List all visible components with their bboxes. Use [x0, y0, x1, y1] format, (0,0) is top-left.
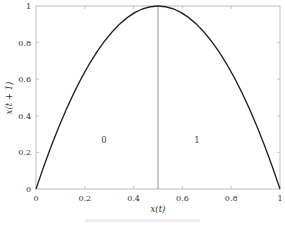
y-tick-label: 0.4 — [18, 112, 31, 121]
region-label-0: 0 — [101, 135, 106, 145]
y-axis-label: x(t + 1) — [4, 82, 14, 115]
y-tick-label: 1 — [26, 2, 31, 11]
x-axis-label: x(t) — [151, 204, 166, 214]
x-tick-label: 0 — [33, 194, 38, 203]
x-tick-label: 0.8 — [225, 194, 238, 203]
y-tick-label: 0.8 — [18, 39, 31, 48]
y-tick-label: 0 — [26, 185, 31, 194]
x-tick-label: 1 — [277, 194, 282, 203]
region-label-1: 1 — [194, 135, 199, 145]
chart: 0 0.2 0.4 0.6 0.8 1 0 0.2 0.4 0.6 0.8 1 … — [0, 0, 285, 226]
y-tick-label: 0.2 — [18, 148, 31, 157]
y-tick-label: 0.6 — [18, 75, 31, 84]
x-tick-label: 0.6 — [176, 194, 189, 203]
x-tick-label: 0.4 — [127, 194, 140, 203]
x-tick-label: 0.2 — [78, 194, 91, 203]
faint-caption-strip — [85, 219, 200, 222]
